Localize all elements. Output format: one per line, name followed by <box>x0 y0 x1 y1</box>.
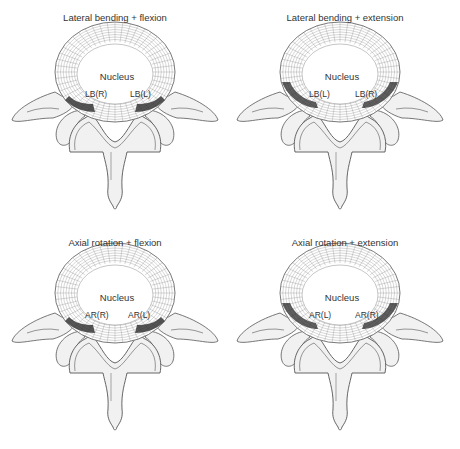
nucleus-label: Nucleus <box>87 292 147 303</box>
panel-title: Axial rotation + extension <box>230 237 460 248</box>
left-load-label: LB(L) <box>309 89 330 99</box>
right-load-label: LB(R) <box>355 89 377 99</box>
panel-title: Lateral bending + extension <box>230 12 460 23</box>
panel-axial-rotation-flexion: Axial rotation + flexion Nucleus AR(R) A… <box>0 225 230 449</box>
nucleus-label: Nucleus <box>87 71 147 82</box>
vertebral-arch <box>294 336 386 430</box>
vertebra-disc-diagram <box>0 225 230 449</box>
vertebral-arch <box>294 115 386 209</box>
nucleus-label: Nucleus <box>312 71 372 82</box>
vertebra-group <box>237 22 443 209</box>
nucleus-label: Nucleus <box>312 292 372 303</box>
panel-lateral-bending-extension: Lateral bending + extension Nucleus LB(L… <box>230 0 460 224</box>
vertebra-group <box>12 22 218 209</box>
vertebra-group <box>12 243 218 430</box>
right-load-label: AR(L) <box>128 310 150 320</box>
vertebra-group <box>237 243 443 430</box>
left-load-label: AR(L) <box>309 310 331 320</box>
panel-title: Axial rotation + flexion <box>0 237 230 248</box>
right-load-label: LB(L) <box>130 89 151 99</box>
panel-axial-rotation-extension: Axial rotation + extension Nucleus AR(L)… <box>230 225 460 449</box>
left-load-label: AR(R) <box>85 310 109 320</box>
vertebral-arch <box>69 115 161 209</box>
right-load-label: AR(R) <box>355 310 379 320</box>
panel-title: Lateral bending + flexion <box>0 12 230 23</box>
panel-lateral-bending-flexion: Lateral bending + flexion Nucleus LB(R) … <box>0 0 230 224</box>
vertebra-disc-diagram <box>0 0 230 224</box>
vertebral-arch <box>69 336 161 430</box>
vertebra-disc-diagram <box>230 0 460 224</box>
left-load-label: LB(R) <box>85 89 107 99</box>
vertebra-disc-diagram <box>230 225 460 449</box>
